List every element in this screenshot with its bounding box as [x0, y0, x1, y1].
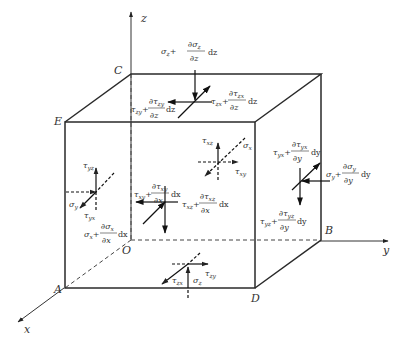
- svg-text:dx: dx: [171, 190, 181, 199]
- svg-text:dz: dz: [208, 48, 217, 57]
- label-sigma-z-top: σz+ ∂σz ∂z dz: [161, 40, 217, 63]
- svg-text:σx: σx: [243, 141, 252, 151]
- label-tau-zx-top: τzx+ ∂τzx ∂z dz: [211, 89, 257, 112]
- vertex-O: O: [122, 244, 131, 257]
- vertex-A: A: [53, 283, 62, 296]
- svg-text:σy: σy: [69, 200, 78, 211]
- x-axis-label: x: [24, 323, 31, 336]
- stress-element-diagram: z y x C E A D B O σz+ ∂σz ∂z dz: [0, 0, 403, 342]
- svg-text:dz: dz: [248, 97, 257, 106]
- svg-text:dx: dx: [219, 200, 229, 209]
- label-tau-zy-top: τzy+ ∂τzy ∂z dz: [131, 97, 175, 120]
- label-tau-yx-right: τyx+ ∂τyx ∂y dy: [273, 140, 321, 163]
- svg-text:τxz+: τxz+: [182, 200, 200, 210]
- svg-text:∂x: ∂x: [201, 206, 210, 215]
- svg-text:τzy+: τzy+: [131, 105, 149, 116]
- tau-yx-right-arrow: [292, 163, 320, 190]
- svg-text:∂τxz: ∂τxz: [200, 192, 216, 202]
- svg-text:∂σz: ∂σz: [188, 40, 202, 50]
- right-face-stresses: [292, 163, 330, 205]
- svg-text:τyx: τyx: [84, 211, 96, 222]
- label-tau-xz-front: τxz+ ∂τxz ∂x dx: [182, 192, 229, 215]
- vertex-C: C: [114, 64, 123, 77]
- svg-text:τxy: τxy: [235, 167, 247, 178]
- svg-text:∂z: ∂z: [150, 111, 159, 120]
- vertex-B: B: [324, 224, 333, 237]
- label-sigma-y-right: σy+ ∂σy ∂y dy: [326, 162, 371, 185]
- svg-text:dy: dy: [361, 170, 371, 179]
- svg-text:∂x: ∂x: [154, 196, 163, 205]
- svg-text:∂z: ∂z: [190, 54, 199, 63]
- svg-text:τzy: τzy: [205, 269, 217, 280]
- label-tau-yz-right: τyz+ ∂τyz ∂y dy: [260, 209, 307, 232]
- svg-text:dy: dy: [297, 217, 307, 226]
- vertex-E: E: [53, 115, 62, 128]
- y-axis-label: y: [382, 244, 390, 257]
- svg-text:∂y: ∂y: [280, 223, 289, 232]
- sigma-x-front-arrow: [143, 202, 165, 224]
- svg-text:∂τzx: ∂τzx: [229, 89, 245, 99]
- svg-text:τzx+: τzx+: [211, 97, 229, 107]
- svg-text:τzx: τzx: [172, 276, 184, 286]
- tau-yx-left-arrow: [80, 192, 96, 208]
- svg-text:dy: dy: [311, 148, 321, 157]
- svg-text:∂σy: ∂σy: [343, 162, 357, 173]
- svg-text:σz: σz: [193, 276, 202, 286]
- svg-text:σx+: σx+: [84, 230, 100, 240]
- svg-text:∂τyx: ∂τyx: [292, 140, 308, 151]
- hidden-edges: [65, 74, 320, 288]
- svg-text:∂z: ∂z: [230, 103, 239, 112]
- svg-text:τxz: τxz: [202, 136, 214, 146]
- left-face-stresses: τyz σy τyx: [66, 161, 114, 222]
- svg-text:τyz: τyz: [83, 161, 95, 172]
- svg-text:τyx+: τyx+: [273, 148, 291, 159]
- label-sigma-x-front: σx+ ∂σx ∂x dx: [84, 222, 128, 245]
- svg-text:τyz+: τyz+: [260, 217, 278, 228]
- bottom-face-stresses: τzy τzx σz: [162, 253, 217, 298]
- svg-text:τxy+: τxy+: [134, 190, 152, 201]
- svg-text:∂y: ∂y: [293, 154, 302, 163]
- vertex-D: D: [250, 292, 260, 305]
- svg-text:dx: dx: [118, 230, 128, 239]
- svg-text:∂σx: ∂σx: [101, 222, 115, 232]
- svg-text:σz+: σz+: [161, 47, 176, 57]
- svg-text:∂τxy: ∂τxy: [152, 182, 168, 193]
- svg-text:∂x: ∂x: [102, 236, 111, 245]
- cube-top-face: [65, 74, 321, 122]
- svg-text:∂τzy: ∂τzy: [149, 97, 165, 108]
- back-face-stresses: τxz σx τxy: [198, 136, 252, 182]
- svg-text:∂y: ∂y: [344, 176, 353, 185]
- svg-text:σy+: σy+: [326, 170, 342, 181]
- svg-text:dz: dz: [166, 105, 175, 114]
- z-axis-label: z: [140, 12, 147, 25]
- cube: [65, 74, 321, 288]
- svg-text:∂τyz: ∂τyz: [279, 209, 295, 220]
